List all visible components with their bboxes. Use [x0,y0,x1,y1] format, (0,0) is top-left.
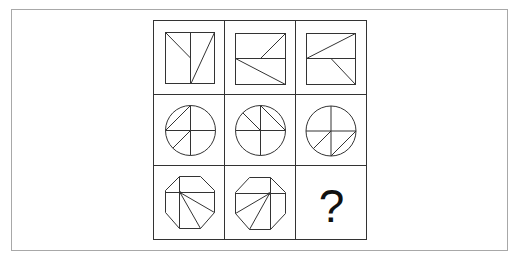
cell-r1-c3-square-figure [307,34,356,85]
cell-r2-c2-circle-figure [236,106,286,156]
cell-r1-c1-square-figure [166,33,215,84]
cell-r3-c2-octagon-figure [236,178,286,230]
cell-r2-c1-circle-figure [166,106,216,156]
missing-answer-question-mark: ? [296,172,367,240]
cell-r2-c3-circle-figure [306,106,356,156]
puzzle-grid: ? [153,20,367,240]
cell-r3-c1-octagon-figure [166,177,215,229]
cell-r1-c2-square-figure [236,34,286,85]
